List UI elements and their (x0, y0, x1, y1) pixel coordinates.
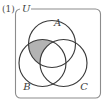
set-label-b: B (22, 81, 30, 92)
venn-diagram-canvas: (1) U A B C (0, 0, 105, 106)
universal-set-label: U (22, 3, 31, 14)
set-label-c: C (80, 81, 88, 92)
set-label-a: A (53, 17, 61, 28)
figure-number-label: (1) (2, 4, 15, 14)
venn-diagram-figure: (1) U A B C (0, 0, 105, 106)
